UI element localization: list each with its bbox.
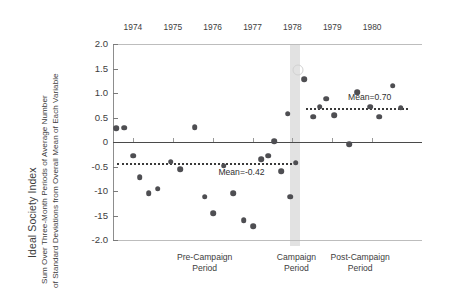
mean-line-pre bbox=[117, 163, 292, 165]
data-point[interactable] bbox=[278, 169, 284, 175]
period-label-line-2: Period bbox=[331, 263, 390, 274]
y-tick-mark bbox=[113, 118, 118, 119]
y-tick-mark bbox=[113, 191, 118, 192]
x-tick-mark bbox=[332, 138, 333, 142]
y-tick-mark bbox=[113, 216, 118, 217]
x-axis-year-label: 1980 bbox=[363, 22, 382, 32]
x-axis-year-label: 1976 bbox=[203, 22, 222, 32]
y-tick-mark bbox=[113, 69, 118, 70]
data-point[interactable] bbox=[310, 114, 316, 120]
data-point[interactable] bbox=[259, 156, 265, 162]
data-point[interactable] bbox=[168, 159, 174, 165]
y-axis-title: Ideal Society Index bbox=[26, 167, 38, 258]
data-point[interactable] bbox=[251, 223, 257, 229]
y-axis-tick-label: -2.0 bbox=[72, 235, 108, 245]
x-tick-mark bbox=[173, 138, 174, 142]
data-point[interactable] bbox=[324, 96, 330, 102]
axis-line-bottom bbox=[113, 240, 422, 241]
data-point[interactable] bbox=[272, 138, 278, 144]
data-point-open[interactable] bbox=[292, 65, 303, 76]
x-axis-year-label: 1975 bbox=[163, 22, 182, 32]
data-point[interactable] bbox=[288, 194, 294, 200]
data-point[interactable] bbox=[317, 104, 323, 110]
period-label-line-1: Pre-Campaign bbox=[177, 252, 232, 263]
x-axis-year-label: 1974 bbox=[124, 22, 143, 32]
y-axis-tick-label: 2.0 bbox=[72, 39, 108, 49]
data-point[interactable] bbox=[146, 191, 152, 197]
zero-reference-line bbox=[113, 142, 422, 143]
data-point[interactable] bbox=[202, 194, 208, 200]
data-point[interactable] bbox=[221, 163, 227, 169]
x-axis-year-label: 1979 bbox=[323, 22, 342, 32]
data-point[interactable] bbox=[121, 125, 127, 131]
y-axis-subtitle-line-1: Sum Over Three-Month Periods of Average … bbox=[40, 95, 49, 284]
data-point[interactable] bbox=[377, 114, 383, 120]
period-label-line-1: Post-Campaign bbox=[331, 252, 390, 263]
y-axis-tick-label: 1.5 bbox=[72, 64, 108, 74]
data-point[interactable] bbox=[302, 76, 308, 82]
y-tick-mark bbox=[113, 167, 118, 168]
axis-line-top bbox=[113, 44, 422, 45]
period-label: Post-CampaignPeriod bbox=[331, 252, 390, 273]
y-axis-tick-label: -15 bbox=[72, 211, 108, 221]
data-point[interactable] bbox=[211, 210, 217, 216]
period-label: Pre-CampaignPeriod bbox=[177, 252, 232, 273]
data-point[interactable] bbox=[266, 153, 272, 159]
y-axis-tick-label: 1.0 bbox=[72, 88, 108, 98]
data-point[interactable] bbox=[367, 104, 373, 110]
data-point[interactable] bbox=[398, 105, 404, 111]
period-label-line-2: Period bbox=[177, 263, 232, 274]
x-axis-year-label: 1978 bbox=[283, 22, 302, 32]
data-point[interactable] bbox=[192, 125, 198, 131]
y-axis-subtitle-line-2: of Standard Deviations from Overall Mean… bbox=[51, 73, 60, 288]
data-point[interactable] bbox=[390, 83, 396, 89]
data-point[interactable] bbox=[331, 112, 337, 118]
data-point[interactable] bbox=[346, 142, 352, 148]
data-point[interactable] bbox=[137, 174, 143, 180]
x-tick-mark bbox=[292, 138, 293, 142]
data-point[interactable] bbox=[241, 218, 247, 224]
data-point[interactable] bbox=[293, 160, 299, 166]
y-axis-tick-label: -0.5 bbox=[72, 162, 108, 172]
x-tick-mark bbox=[133, 138, 134, 142]
data-point[interactable] bbox=[113, 125, 119, 131]
y-axis-tick-label: 0 bbox=[72, 137, 108, 147]
data-point[interactable] bbox=[155, 186, 161, 192]
y-tick-mark bbox=[113, 240, 118, 241]
period-label-line-1: Campaign bbox=[277, 252, 316, 263]
x-tick-mark bbox=[213, 138, 214, 142]
data-point[interactable] bbox=[354, 89, 360, 95]
data-point[interactable] bbox=[231, 191, 237, 197]
data-point[interactable] bbox=[285, 111, 291, 117]
y-axis-tick-label: 0.5 bbox=[72, 113, 108, 123]
y-tick-mark bbox=[113, 44, 118, 45]
data-point[interactable] bbox=[177, 166, 183, 172]
x-tick-mark bbox=[372, 138, 373, 142]
chart-canvas: Ideal Society Index Sum Over Three-Month… bbox=[0, 0, 456, 292]
y-axis-title-group: Ideal Society Index Sum Over Three-Month… bbox=[0, 0, 72, 292]
x-tick-mark bbox=[253, 138, 254, 142]
y-axis-tick-label: -10 bbox=[72, 186, 108, 196]
x-axis-year-label: 1977 bbox=[243, 22, 262, 32]
period-label-line-2: Period bbox=[277, 263, 316, 274]
data-point[interactable] bbox=[130, 153, 136, 159]
y-tick-mark bbox=[113, 93, 118, 94]
period-label: CampaignPeriod bbox=[277, 252, 316, 273]
